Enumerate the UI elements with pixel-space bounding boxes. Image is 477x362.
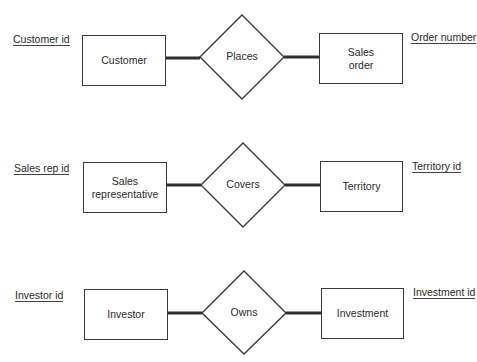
entity-territory: Territory xyxy=(320,161,403,212)
relationship-label-places: Places xyxy=(226,50,258,62)
entity-label: Customer xyxy=(101,54,147,67)
entity-sales-representative: Sales representative xyxy=(83,162,167,213)
entity-label: Investor xyxy=(107,308,144,321)
key-attribute-investor-id: Investor id xyxy=(15,289,63,302)
entity-label: Territory xyxy=(343,180,381,193)
entity-label: Investment xyxy=(337,307,388,320)
entity-customer: Customer xyxy=(82,35,166,86)
entity-label-line1: Sales xyxy=(348,46,374,59)
entity-sales-order: Sales order xyxy=(319,33,403,84)
entity-investment: Investment xyxy=(321,288,404,339)
relationship-label-covers: Covers xyxy=(226,178,259,190)
key-attribute-sales-rep-id: Sales rep id xyxy=(14,162,69,175)
key-attribute-order-number: Order number xyxy=(411,31,476,44)
key-attribute-investment-id: Investment id xyxy=(413,286,475,299)
entity-label-line2: order xyxy=(348,59,374,72)
entity-label-line2: representative xyxy=(92,188,159,201)
er-diagram: Customer id Customer Places Sales order … xyxy=(0,0,477,362)
key-attribute-territory-id: Territory id xyxy=(412,160,461,173)
entity-investor: Investor xyxy=(84,289,168,340)
key-attribute-customer-id: Customer id xyxy=(13,33,70,46)
relationship-label-owns: Owns xyxy=(231,306,258,318)
entity-label-line1: Sales xyxy=(92,175,159,188)
